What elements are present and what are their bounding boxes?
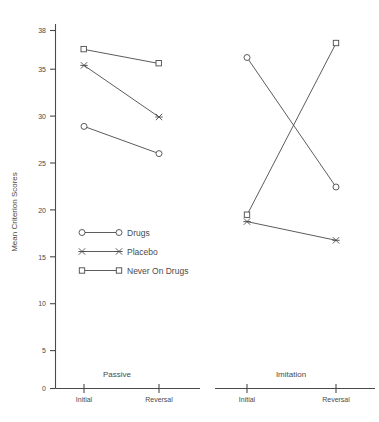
y-axis: 38 35 30 25 20 15 10 5 0 Mean Criterion … <box>10 24 56 392</box>
series-segment <box>247 58 336 188</box>
panel-label-imitation: Imitation <box>276 370 306 379</box>
series-segment <box>84 65 159 117</box>
open-circle-icon <box>79 230 85 236</box>
data-point-marker <box>244 55 250 61</box>
imitation-xtick-label-reversal: Reversal <box>322 396 350 403</box>
legend-item-never-on-drugs: Never On Drugs <box>79 266 188 276</box>
open-square-icon <box>79 268 84 273</box>
y-tick-label-38: 38 <box>38 27 46 34</box>
data-point-marker <box>244 212 249 217</box>
mean-criterion-scores-chart: 38 35 30 25 20 15 10 5 0 Mean Criterion … <box>0 0 379 422</box>
y-tick-group <box>50 31 56 389</box>
panel-passive: Initial Reversal Passive <box>56 46 201 403</box>
series-passive-never-on-drugs <box>81 46 161 66</box>
x-mark-icon <box>78 248 85 254</box>
series-segment <box>247 43 336 215</box>
y-tick-label-5: 5 <box>42 347 46 354</box>
series-passive-placebo <box>80 62 162 120</box>
y-tick-label-30: 30 <box>38 113 46 120</box>
data-point-marker <box>156 151 162 157</box>
passive-xtick-label-initial: Initial <box>76 396 93 403</box>
legend-item-drugs: Drugs <box>79 228 150 238</box>
y-axis-title: Mean Criterion Scores <box>10 172 19 252</box>
y-tick-label-25: 25 <box>38 160 46 167</box>
series-segment <box>247 222 336 241</box>
series-passive-drugs <box>81 123 162 156</box>
passive-xtick-label-reversal: Reversal <box>145 396 173 403</box>
open-square-icon <box>116 268 121 273</box>
y-tick-labels: 38 35 30 25 20 15 10 5 0 <box>38 27 46 392</box>
legend-label-drugs: Drugs <box>127 228 150 238</box>
panel-label-passive: Passive <box>103 370 132 379</box>
legend-item-placebo: Placebo <box>78 247 158 257</box>
data-point-marker <box>156 61 161 66</box>
panel-imitation: Initial Reversal Imitation <box>215 40 375 403</box>
data-point-marker <box>243 218 250 224</box>
legend-label-never-on-drugs: Never On Drugs <box>127 266 188 276</box>
y-tick-label-35: 35 <box>38 66 46 73</box>
data-point-marker <box>81 123 87 129</box>
y-tick-label-20: 20 <box>38 207 46 214</box>
series-imitation-never-on-drugs <box>244 40 338 217</box>
y-tick-label-15: 15 <box>38 254 46 261</box>
y-tick-label-10: 10 <box>38 300 46 307</box>
x-mark-icon <box>115 248 122 254</box>
chart-legend: Drugs Placebo Never On Drugs <box>78 228 188 276</box>
series-segment <box>84 126 159 153</box>
data-point-marker <box>333 40 338 45</box>
data-point-marker <box>333 184 339 190</box>
open-circle-icon <box>116 230 122 236</box>
data-point-marker <box>332 237 339 243</box>
y-tick-label-0: 0 <box>42 385 46 392</box>
series-imitation-placebo <box>243 218 339 243</box>
data-point-marker <box>81 46 86 51</box>
series-imitation-drugs <box>244 55 339 191</box>
data-point-marker <box>155 114 162 120</box>
imitation-xtick-label-initial: Initial <box>239 396 256 403</box>
series-segment <box>84 49 159 63</box>
data-point-marker <box>80 62 87 68</box>
legend-label-placebo: Placebo <box>127 247 158 257</box>
